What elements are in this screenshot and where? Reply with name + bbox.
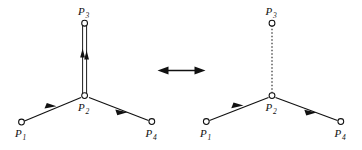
node-p2-right[interactable] <box>269 93 275 99</box>
resonance-double-arrow <box>158 67 206 75</box>
svg-text:P: P <box>334 127 342 139</box>
svg-text:P: P <box>145 127 153 139</box>
label-p2-right: P 2 <box>265 101 278 116</box>
node-p3-left[interactable] <box>82 20 88 26</box>
node-p4-right[interactable] <box>338 119 344 125</box>
label-p3-left: P 3 <box>77 5 90 20</box>
resonance-arrowhead-left <box>158 67 169 75</box>
node-p2-left[interactable] <box>82 93 88 99</box>
arrowhead-p2-p3-left-a <box>80 49 85 58</box>
node-p3-right[interactable] <box>269 20 275 26</box>
svg-text:P: P <box>77 101 85 113</box>
label-p1-right: P 1 <box>199 127 211 142</box>
node-p1-left[interactable] <box>19 119 25 125</box>
svg-text:1: 1 <box>208 133 212 142</box>
label-p1-left: P 1 <box>14 127 26 142</box>
svg-text:P: P <box>14 127 22 139</box>
svg-text:P: P <box>199 127 207 139</box>
svg-text:P: P <box>265 5 273 17</box>
label-p4-left: P 4 <box>145 127 158 142</box>
edge-p2-p4-right <box>276 98 338 121</box>
node-p4-left[interactable] <box>149 119 155 125</box>
label-p3-right: P 3 <box>265 5 278 20</box>
label-p2-left: P 2 <box>77 101 90 116</box>
svg-text:3: 3 <box>85 11 90 20</box>
node-p1-right[interactable] <box>203 119 209 125</box>
edge-p1-p2-right <box>210 98 269 121</box>
svg-text:3: 3 <box>272 11 277 20</box>
label-p4-right: P 4 <box>334 127 347 142</box>
svg-text:4: 4 <box>153 133 157 142</box>
svg-text:4: 4 <box>342 133 346 142</box>
svg-text:2: 2 <box>86 107 90 116</box>
svg-text:2: 2 <box>273 107 277 116</box>
svg-text:P: P <box>77 5 85 17</box>
resonance-arrowhead-right <box>195 67 206 75</box>
edge-p1-p2-left <box>25 98 82 122</box>
svg-text:1: 1 <box>23 133 27 142</box>
arrowhead-p1-p2-left <box>45 103 57 109</box>
edge-p2-p4-left <box>89 98 149 121</box>
arrowhead-p2-p3-left-b <box>84 51 89 60</box>
right-panel: P 1 P 2 P 3 P 4 <box>199 5 346 142</box>
diagram-svg: P 1 P 2 P 3 P 4 <box>0 0 362 150</box>
figure-canvas: P 1 P 2 P 3 P 4 <box>0 0 362 150</box>
left-panel: P 1 P 2 P 3 P 4 <box>14 5 157 142</box>
svg-text:P: P <box>265 101 273 113</box>
